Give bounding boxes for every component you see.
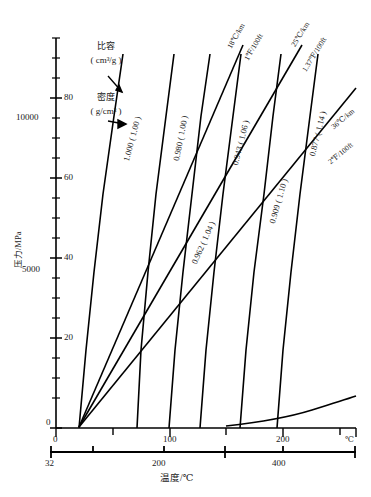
x-tick-label-0: 0 xyxy=(53,435,58,444)
x-f-tick-label-400: 400 xyxy=(272,459,286,468)
y-psi-label-5000: 5000 xyxy=(22,265,40,274)
annotation-density-unit: ( g/cm³ ) xyxy=(70,107,142,116)
x-f-tick-label-200: 200 xyxy=(152,459,166,468)
y-tick-label-60: 60 xyxy=(64,173,73,182)
curve-saturation xyxy=(226,396,356,426)
annotation-density-text: 密度 xyxy=(76,93,136,102)
curve-density-0909 xyxy=(240,54,281,428)
x-ticks-celsius xyxy=(56,428,356,437)
y-axis-title: 压力/MPa xyxy=(14,232,23,268)
y-tick-label-0: 0 xyxy=(46,418,51,427)
curve-gradient-25c xyxy=(79,45,302,427)
x-tick-label-200: 200 xyxy=(276,435,290,444)
x-axis-title: 温度/℃ xyxy=(160,474,193,484)
curve-density-0877 xyxy=(277,54,318,428)
x-axis-unit-celsius: ℃ xyxy=(345,436,354,444)
annotation-specific-volume-text: 比容 xyxy=(76,42,136,51)
y-tick-label-20: 20 xyxy=(64,333,73,342)
y-tick-label-40: 40 xyxy=(64,253,73,262)
x-tick-label-100: 100 xyxy=(163,435,177,444)
y-tick-label-80: 80 xyxy=(64,93,73,102)
y-psi-label-10000: 10000 xyxy=(16,113,39,122)
annotation-specific-volume-unit: ( cm³/g ) xyxy=(72,56,140,65)
annotation-arrows xyxy=(108,76,126,128)
chart-svg xyxy=(0,0,371,497)
figure-container: 压力/MPa 80 60 40 20 0 10000 5000 0 100 20… xyxy=(0,0,371,497)
x-f-tick-label-32: 32 xyxy=(45,459,54,468)
curve-density-0980 xyxy=(137,54,174,428)
